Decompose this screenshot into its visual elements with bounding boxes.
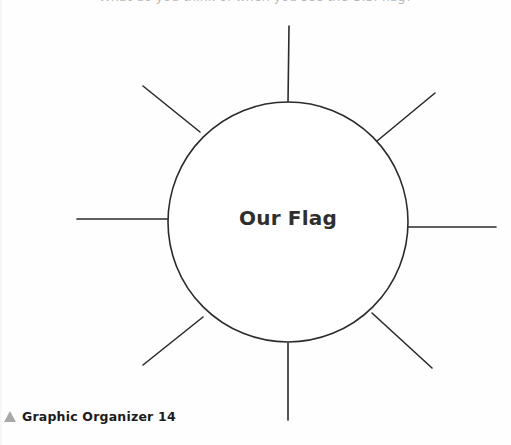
- spoke-se[interactable]: [372, 313, 432, 368]
- graphic-organizer-web: Our Flag: [0, 0, 511, 445]
- worksheet-page: What do you think of when you see the U.…: [0, 0, 511, 445]
- center-topic-label: Our Flag: [168, 206, 408, 230]
- footer-label: Graphic Organizer 14: [22, 409, 176, 424]
- spoke-ne[interactable]: [377, 93, 435, 141]
- spoke-nw[interactable]: [143, 86, 200, 132]
- footer: Graphic Organizer 14: [4, 409, 176, 424]
- triangle-up-icon: [4, 411, 16, 422]
- spoke-sw[interactable]: [143, 317, 203, 365]
- spoke-n[interactable]: [288, 26, 289, 103]
